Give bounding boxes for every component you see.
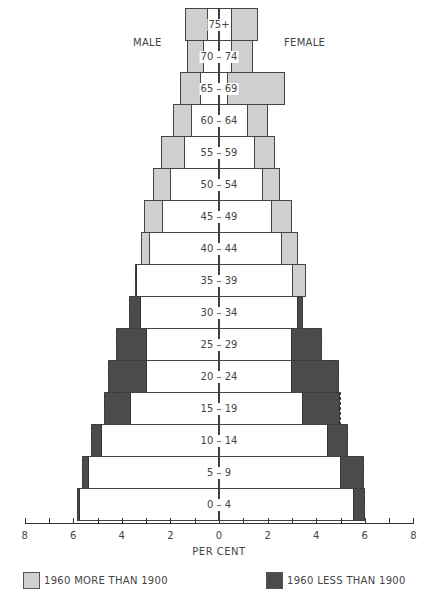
female-increase-bar [262, 168, 280, 201]
x-axis-tick [389, 518, 390, 524]
x-axis-tick [146, 518, 147, 524]
female-increase-bar [254, 136, 274, 169]
male-increase-bar [173, 104, 192, 137]
age-group-label: 25 – 29 [200, 339, 239, 351]
x-axis-tick-label: 8 [410, 530, 416, 541]
x-axis-tick-label: 4 [119, 530, 125, 541]
female-1900-outline [219, 488, 365, 521]
x-axis-tick [341, 518, 342, 524]
x-axis-tick [49, 518, 50, 524]
age-group-label: 70 – 74 [200, 51, 239, 63]
age-group-label: 5 – 9 [206, 467, 232, 479]
male-1900-outline [82, 456, 219, 489]
age-group-label: 55 – 59 [200, 147, 239, 159]
x-axis-tick-label: 6 [362, 530, 368, 541]
x-axis-tick [122, 518, 123, 524]
legend-item-more: 1960 MORE THAN 1900 [23, 572, 168, 589]
age-group-label: 40 – 44 [200, 243, 239, 255]
x-axis-title: PER CENT [192, 546, 245, 557]
x-axis-tick [170, 518, 171, 524]
x-axis-tick [292, 518, 293, 524]
x-axis-tick [365, 518, 366, 524]
age-group-label: 65 – 69 [200, 83, 239, 95]
x-axis-tick [195, 518, 196, 524]
x-axis-tick-label: 2 [264, 530, 270, 541]
age-group-label: 50 – 54 [200, 179, 239, 191]
age-group-label: 20 – 24 [200, 371, 239, 383]
age-group-label: 15 – 19 [200, 403, 239, 415]
x-axis-tick [316, 518, 317, 524]
male-increase-bar [153, 168, 171, 201]
male-increase-bar [144, 200, 163, 233]
female-increase-bar [292, 264, 306, 297]
x-axis-tick [25, 518, 26, 524]
male-1900-outline [77, 488, 219, 521]
male-label: MALE [133, 37, 162, 48]
age-group-label: 35 – 39 [200, 275, 239, 287]
x-axis-tick-label: 6 [70, 530, 76, 541]
age-group-label: 45 – 49 [200, 211, 239, 223]
age-group-label: 0 – 4 [206, 499, 232, 511]
population-pyramid-chart: 75+70 – 7465 – 6960 – 6455 – 5950 – 5445… [0, 0, 436, 597]
x-axis-tick-label: 0 [216, 530, 222, 541]
x-axis-tick [413, 518, 414, 524]
male-increase-bar [185, 8, 208, 41]
x-axis-tick-label: 2 [167, 530, 173, 541]
x-axis-tick [73, 518, 74, 524]
x-axis-tick [219, 518, 220, 524]
female-increase-bar [271, 200, 291, 233]
x-axis-tick [268, 518, 269, 524]
x-axis-tick-label: 8 [21, 530, 27, 541]
x-axis-tick-label: 4 [313, 530, 319, 541]
legend-swatch-less [266, 572, 283, 589]
female-increase-bar [281, 232, 298, 265]
female-1900-outline [219, 456, 364, 489]
age-group-label: 60 – 64 [200, 115, 239, 127]
age-group-label: 75+ [207, 19, 230, 31]
x-axis-tick [243, 518, 244, 524]
legend-label-less: 1960 LESS THAN 1900 [287, 575, 406, 586]
female-label: FEMALE [284, 37, 325, 48]
x-axis-tick [98, 518, 99, 524]
female-increase-bar [247, 104, 267, 137]
legend-item-less: 1960 LESS THAN 1900 [266, 572, 406, 589]
age-group-label: 10 – 14 [200, 435, 239, 447]
legend-label-more: 1960 MORE THAN 1900 [44, 575, 168, 586]
male-increase-bar [161, 136, 185, 169]
legend-swatch-more [23, 572, 40, 589]
female-increase-bar [231, 8, 258, 41]
male-increase-bar [180, 72, 200, 105]
age-group-label: 30 – 34 [200, 307, 239, 319]
